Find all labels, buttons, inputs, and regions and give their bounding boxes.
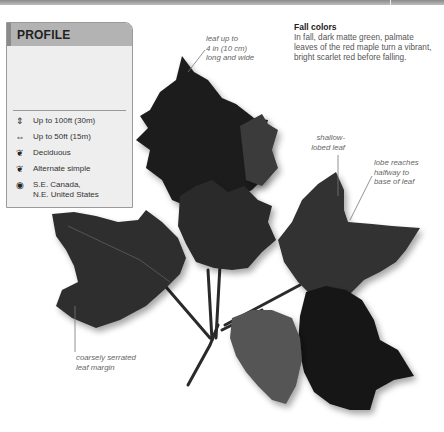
fact-leaf-type-text: Deciduous xyxy=(33,148,71,158)
profile-facts: ⇕Up to 100ft (30m) ⇔Up to 50ft (15m) ❦De… xyxy=(7,116,132,204)
profile-panel: PROFILE ⇕Up to 100ft (30m) ⇔Up to 50ft (… xyxy=(6,22,133,208)
leaf-center xyxy=(178,180,276,270)
fact-region-line2: N.E. United States xyxy=(33,190,99,199)
leaf-right xyxy=(278,172,420,300)
leaf-top-right-lobe xyxy=(240,114,278,186)
fall-colors-box: Fall colors In fall, dark matte green, p… xyxy=(294,22,434,63)
profile-header: PROFILE xyxy=(7,23,132,46)
annotation-lobe-reaches: lobe reaches halfway to base of leaf xyxy=(374,158,419,187)
leaf-bottom-right xyxy=(298,286,414,410)
fact-height: ⇕Up to 100ft (30m) xyxy=(13,116,132,132)
globe-region-icon: ◉ xyxy=(13,180,27,190)
fact-region-text: S.E. Canada,N.E. United States xyxy=(33,180,99,200)
annotation-line: base of leaf xyxy=(374,177,419,187)
annotation-line: lobe reaches xyxy=(374,158,419,168)
deciduous-leaf-icon: ❦ xyxy=(13,148,27,158)
fact-arrangement-text: Alternate simple xyxy=(33,164,90,174)
fact-region: ◉S.E. Canada,N.E. United States xyxy=(13,180,132,204)
annotation-serrated-margin: coarsely serrated leaf margin xyxy=(76,353,136,372)
fall-colors-body: In fall, dark matte green, palmate leave… xyxy=(294,33,434,63)
fact-height-text: Up to 100ft (30m) xyxy=(33,116,95,126)
profile-title: PROFILE xyxy=(17,28,70,42)
annotation-line: leaf margin xyxy=(76,363,136,373)
fall-colors-heading: Fall colors xyxy=(294,22,434,32)
annotation-shallow-lobed: shallow- lobed leaf xyxy=(305,133,345,152)
leaf-arrangement-icon: ❦ xyxy=(13,164,27,174)
annotation-line: shallow- xyxy=(305,133,345,143)
spread-icon: ⇔ xyxy=(13,132,27,142)
fact-arrangement: ❦Alternate simple xyxy=(13,164,132,180)
fact-region-line1: S.E. Canada, xyxy=(33,180,81,189)
fact-spread: ⇔Up to 50ft (15m) xyxy=(13,132,132,148)
annotation-line: halfway to xyxy=(374,168,419,178)
annotation-line: long and wide xyxy=(206,53,254,63)
annotation-line: leaf up to xyxy=(206,34,254,44)
annotation-leaf-size: leaf up to 4 in (10 cm) long and wide xyxy=(206,34,254,63)
annotation-line: lobed leaf xyxy=(305,143,345,153)
annotation-line: 4 in (10 cm) xyxy=(206,44,254,54)
fact-leaf-type: ❦Deciduous xyxy=(13,148,132,164)
height-icon: ⇕ xyxy=(13,116,27,126)
annotation-line: coarsely serrated xyxy=(76,353,136,363)
tree-image-area xyxy=(13,46,126,111)
leaf-bottom-center xyxy=(230,310,302,404)
fact-spread-text: Up to 50ft (15m) xyxy=(33,132,91,142)
